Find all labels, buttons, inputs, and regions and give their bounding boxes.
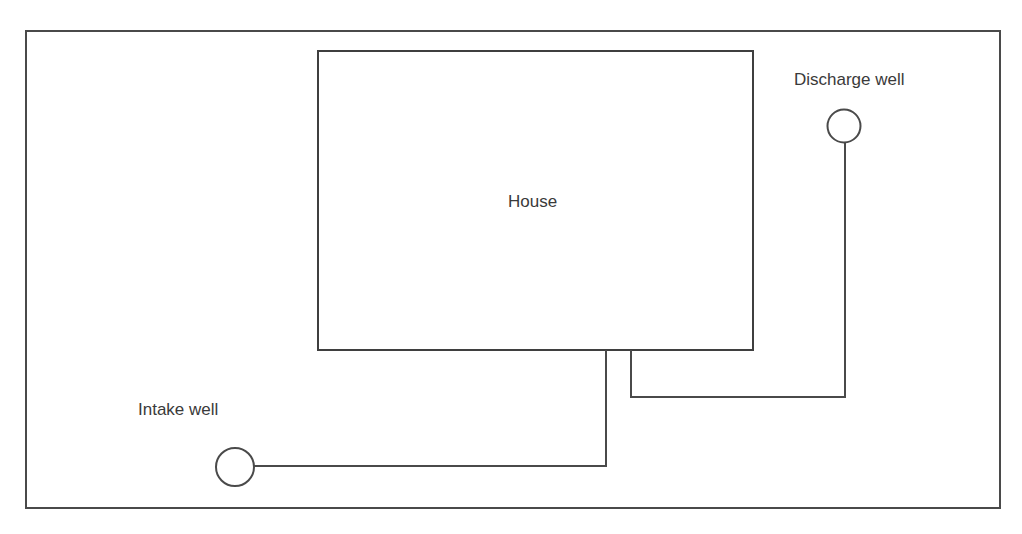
property-boundary bbox=[26, 31, 1000, 508]
intake-well-icon bbox=[216, 448, 254, 486]
intake-well-label: Intake well bbox=[138, 400, 218, 420]
discharge-well-icon bbox=[828, 110, 861, 143]
house-label: House bbox=[508, 192, 557, 212]
discharge-pipe bbox=[631, 143, 845, 397]
intake-pipe bbox=[254, 350, 606, 466]
discharge-well-label: Discharge well bbox=[794, 70, 905, 90]
